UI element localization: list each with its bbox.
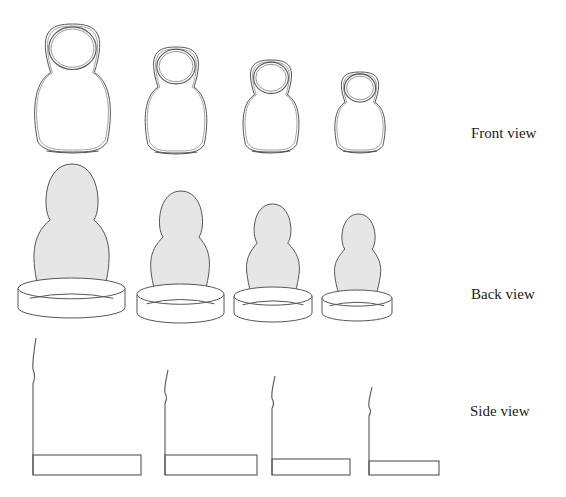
front-body-outline [35, 24, 111, 152]
back-silhouette [34, 164, 109, 290]
side-view-row [33, 338, 439, 475]
side-base-rect [33, 455, 141, 475]
front-doll-3 [243, 60, 299, 153]
front-doll-4 [335, 72, 385, 153]
base-ring-top [137, 284, 224, 304]
front-view-row [35, 24, 386, 154]
side-view-label: Side view [470, 403, 530, 420]
front-body-inner-outline [147, 49, 205, 151]
back-doll-3 [234, 204, 312, 322]
front-body-inner-outline [245, 62, 297, 150]
side-doll-1 [33, 338, 141, 475]
face-ring-outer [254, 62, 289, 93]
side-base-rect [369, 461, 439, 475]
back-silhouette [151, 191, 210, 296]
face-ring-outer [157, 49, 195, 84]
side-doll-4 [369, 387, 439, 475]
front-body-outline [243, 60, 299, 152]
side-doll-2 [165, 370, 257, 475]
side-base-rect [272, 459, 350, 475]
front-view-label: Front view [471, 125, 536, 142]
front-body-outline [145, 47, 207, 153]
side-doll-3 [272, 376, 350, 475]
side-base-rect [165, 455, 257, 475]
front-doll-2 [145, 47, 207, 154]
face-ring-outer [344, 74, 375, 102]
front-body-inner-outline [37, 26, 109, 150]
face-ring-inner [256, 64, 286, 91]
face-ring-inner [159, 52, 193, 82]
back-doll-2 [137, 191, 224, 323]
face-ring-outer [49, 27, 96, 70]
doll-diagram [0, 0, 566, 497]
back-silhouette [334, 214, 380, 299]
face-ring-inner [347, 76, 374, 100]
front-doll-1 [35, 24, 111, 153]
back-doll-4 [322, 214, 392, 321]
face-ring-inner [51, 29, 94, 67]
base-ring-top [322, 290, 392, 306]
base-ring-top [234, 287, 312, 305]
base-ring-top [18, 278, 125, 299]
back-silhouette [247, 204, 300, 298]
back-view-label: Back view [471, 286, 535, 303]
front-body-inner-outline [337, 74, 383, 150]
back-view-row [18, 164, 392, 323]
back-doll-1 [18, 164, 125, 318]
front-body-outline [335, 72, 385, 152]
